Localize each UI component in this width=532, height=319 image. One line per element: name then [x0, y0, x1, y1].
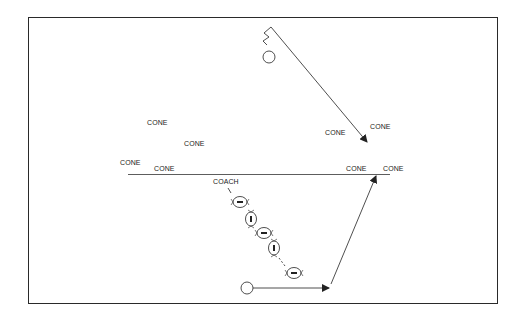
coach-label: COACH	[213, 178, 239, 186]
coach-dash	[228, 188, 231, 193]
cone-label: CONE	[184, 140, 205, 148]
football-icon	[269, 239, 280, 257]
football-icon	[285, 268, 303, 279]
bottom-route-arrow	[331, 176, 376, 284]
ball-dash	[279, 258, 285, 266]
football-icon	[255, 228, 273, 239]
football-icon	[231, 197, 249, 208]
cone-label: CONE	[346, 165, 367, 173]
diagram-drawing	[0, 0, 532, 319]
cone-label: CONE	[147, 119, 168, 127]
cone-label: CONE	[370, 123, 391, 131]
cone-label: CONE	[325, 129, 346, 137]
top-player-icon	[263, 51, 275, 63]
drill-diagram: CONE CONE CONE CONE CONE CONE CONE CONE …	[0, 0, 532, 319]
top-route-arrow	[271, 27, 367, 142]
cone-label: CONE	[383, 165, 404, 173]
cone-label: CONE	[154, 165, 175, 173]
zigzag-motion-icon	[263, 27, 271, 45]
bottom-player-icon	[241, 282, 253, 294]
cone-label: CONE	[120, 159, 141, 167]
football-icon	[246, 210, 257, 228]
